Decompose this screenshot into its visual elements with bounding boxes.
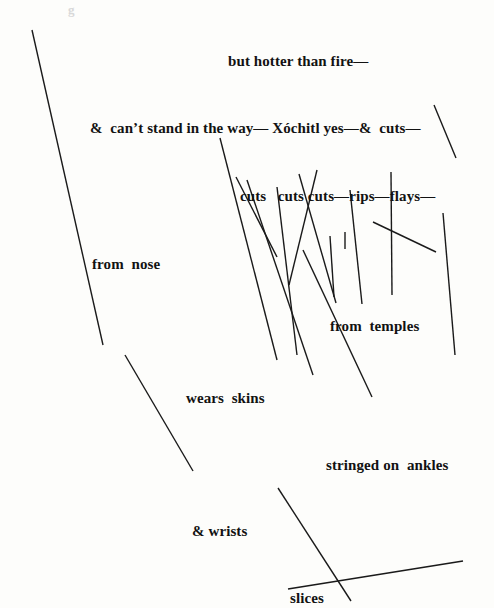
poem-text-line-8: & wrists: [192, 524, 247, 539]
stroke-left-long: [32, 30, 103, 345]
poem-text-line-9: slices: [290, 591, 324, 606]
poem-text-line-5: from temples: [330, 319, 419, 334]
poem-text-line-3: cuts cuts cuts—rips—flays—: [240, 189, 435, 204]
stroke-left-lower: [125, 355, 193, 471]
stroke-center-i: [350, 190, 362, 304]
stroke-bottom-horizontal: [288, 561, 463, 589]
stroke-right-c: [373, 222, 436, 252]
stroke-center-a: [220, 138, 277, 360]
stroke-center-d: [277, 187, 297, 355]
poem-text-line-1: but hotter than fire—: [228, 54, 368, 69]
poem-text-line-7: stringed on ankles: [326, 458, 448, 473]
stroke-bottom-diagonal: [278, 488, 351, 601]
poem-text-line-4: from nose: [92, 257, 160, 272]
poem-page: g but hotter than fire—& can’t stand in …: [0, 0, 494, 608]
stroke-right-a: [434, 105, 456, 158]
poem-text-line-6: wears skins: [186, 391, 265, 406]
stroke-overlay: [0, 0, 494, 608]
stroke-right-d: [443, 213, 455, 355]
poem-text-line-2: & can’t stand in the way— Xóchitl yes—& …: [90, 121, 421, 136]
stroke-center-c: [247, 180, 313, 375]
faint-artifact-mark: g: [68, 2, 75, 18]
stroke-center-g: [330, 236, 334, 297]
